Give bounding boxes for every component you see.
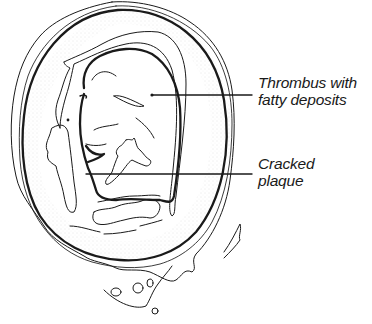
thrombus-detail-right <box>136 118 154 138</box>
cracked-plaque-label: Cracked plaque <box>258 155 314 189</box>
plaque-label-line-2: plaque <box>258 172 314 189</box>
small-vessel-2 <box>133 283 143 293</box>
thrombus-label: Thrombus with fatty deposits <box>258 74 357 108</box>
lower-deposit <box>93 199 160 224</box>
cracked-plaque-fragment <box>106 138 151 184</box>
thrombus-cleft <box>114 96 144 107</box>
small-vessel-3 <box>147 279 153 287</box>
artery-cross-section-diagram <box>0 0 372 324</box>
cracked-flap <box>86 146 104 162</box>
thrombus-detail-low <box>86 144 106 146</box>
tissue-strand-bottom <box>104 266 172 307</box>
tissue-strand-right <box>224 224 241 258</box>
lumen-outline <box>80 49 181 202</box>
thrombus-detail-top <box>92 72 116 80</box>
thrombus-label-line-2: fatty deposits <box>258 91 357 108</box>
left-plaque-lobe <box>46 125 76 212</box>
thrombus-label-line-1: Thrombus with <box>258 74 357 91</box>
lower-wave-3 <box>140 220 162 226</box>
marker-dot <box>67 119 70 122</box>
thrombus-detail-mid <box>94 124 118 130</box>
plaque-label-line-1: Cracked <box>258 155 314 172</box>
lower-wave-2 <box>104 230 136 234</box>
small-vessel-4 <box>152 308 158 314</box>
small-vessel-1 <box>111 288 121 296</box>
